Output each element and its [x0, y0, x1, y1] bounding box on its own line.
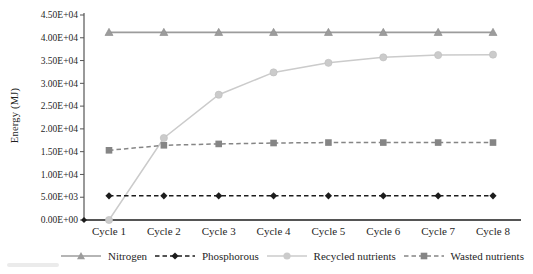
series-marker-recycled-nutrients	[380, 54, 387, 61]
y-tick-label: 2.50E+04	[41, 101, 79, 111]
chart-figure: Energy (MJ) 0.00E+005.00E+031.00E+041.50…	[0, 0, 533, 274]
y-tick-label: 0.00E+00	[41, 215, 79, 225]
y-tick-label: 4.50E+04	[41, 10, 79, 20]
legend-swatch-phosphorous-icon	[154, 250, 196, 262]
x-category-label: Cycle 2	[147, 225, 181, 237]
series-marker-recycled-nutrients	[270, 69, 277, 76]
series-marker-wasted-nutrients	[325, 139, 332, 146]
y-tick-label: 3.50E+04	[41, 56, 79, 66]
series-marker-wasted-nutrients	[215, 141, 222, 148]
series-marker-phosphorous	[435, 192, 442, 199]
legend-item-wasted-nutrients: Wasted nutrients	[403, 250, 524, 262]
series-marker-wasted-nutrients	[435, 139, 442, 146]
x-category-label: Cycle 8	[476, 225, 510, 237]
series-marker-phosphorous	[380, 192, 387, 199]
y-tick-label: 1.00E+04	[41, 170, 79, 180]
series-marker-wasted-nutrients	[270, 140, 277, 147]
series-marker-recycled-nutrients	[160, 134, 167, 141]
series-marker-recycled-nutrients	[435, 51, 442, 58]
x-category-label: Cycle 6	[366, 225, 400, 237]
series-marker-phosphorous	[270, 192, 277, 199]
series-marker-wasted-nutrients	[161, 142, 168, 149]
legend-item-phosphorous: Phosphorous	[154, 250, 259, 262]
origin-marker	[81, 217, 87, 223]
legend-label: Recycled nutrients	[314, 250, 396, 262]
y-tick-label: 3.00E+04	[41, 79, 79, 89]
series-marker-phosphorous	[215, 192, 222, 199]
series-marker-recycled-nutrients	[489, 51, 496, 58]
x-category-label: Cycle 1	[92, 225, 126, 237]
x-category-label: Cycle 7	[421, 225, 455, 237]
series-marker-wasted-nutrients	[106, 147, 113, 154]
series-marker-phosphorous	[489, 192, 496, 199]
y-tick-label: 1.50E+04	[41, 147, 79, 157]
series-marker-wasted-nutrients	[490, 139, 497, 146]
series-marker-recycled-nutrients	[215, 91, 222, 98]
legend-swatch-nitrogen-icon	[60, 250, 102, 262]
legend: NitrogenPhosphorousRecycled nutrientsWas…	[60, 248, 524, 264]
legend-item-nitrogen: Nitrogen	[60, 250, 147, 262]
series-marker-wasted-nutrients	[380, 139, 387, 146]
y-tick-label: 5.00E+03	[41, 192, 79, 202]
legend-swatch-wasted-nutrients-icon	[403, 250, 445, 262]
x-category-label: Cycle 3	[202, 225, 236, 237]
cropped-caption-fragment	[7, 263, 59, 267]
series-marker-recycled-nutrients	[105, 216, 112, 223]
legend-item-recycled-nutrients: Recycled nutrients	[266, 250, 396, 262]
legend-label: Phosphorous	[202, 250, 259, 262]
plot-area: 0.00E+005.00E+031.00E+041.50E+042.00E+04…	[0, 0, 533, 274]
legend-swatch-recycled-nutrients-icon	[266, 250, 308, 262]
x-category-label: Cycle 4	[257, 225, 291, 237]
series-marker-recycled-nutrients	[325, 59, 332, 66]
series-marker-phosphorous	[105, 192, 112, 199]
x-category-label: Cycle 5	[311, 225, 345, 237]
y-tick-label: 4.00E+04	[41, 33, 79, 43]
series-marker-phosphorous	[325, 192, 332, 199]
series-marker-phosphorous	[160, 192, 167, 199]
y-tick-label: 2.00E+04	[41, 124, 79, 134]
legend-label: Wasted nutrients	[451, 250, 524, 262]
legend-label: Nitrogen	[108, 250, 147, 262]
